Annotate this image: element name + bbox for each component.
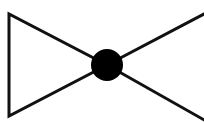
figure-root: p g [0,0,204,122]
bowtie-diagram-svg [0,0,204,122]
center-node-circle [91,49,123,81]
